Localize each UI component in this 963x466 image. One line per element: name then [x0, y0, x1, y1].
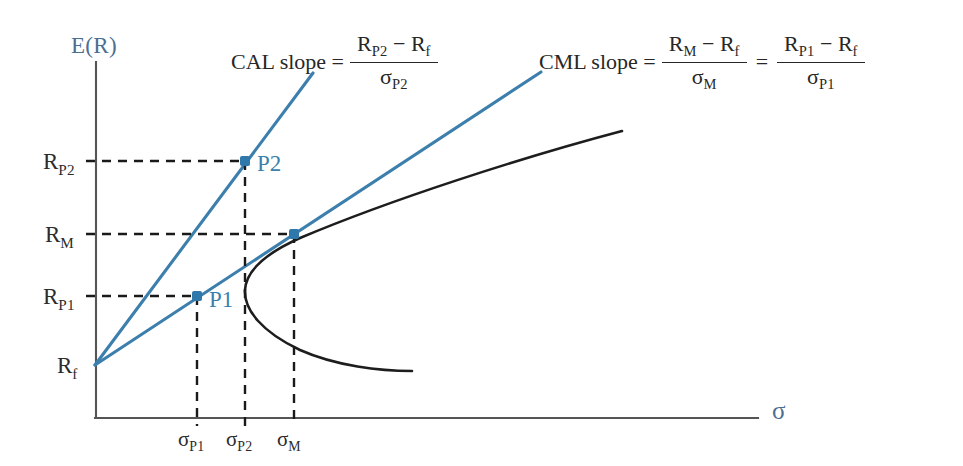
cml-f2-num-r1-sub: P1	[799, 43, 815, 59]
cml-f1-num-r1-sub: M	[683, 43, 696, 59]
x-tick-sigma-p2: σP2	[226, 429, 252, 454]
x-axis-title: σ	[772, 398, 786, 423]
y-tick-rm-base: R	[45, 222, 60, 247]
point-label-p1: P1	[209, 288, 233, 311]
cal-num-minus: −	[393, 31, 405, 56]
x-tick-sigma-p1-base: σ	[178, 427, 189, 451]
cml-slope-fraction-2: RP1 − Rf σP1	[777, 32, 865, 93]
x-tick-sigma-p2-sub: P2	[237, 439, 252, 454]
y-tick-rf-base: R	[57, 353, 72, 378]
point-label-p2: P2	[257, 152, 281, 175]
cml-slope-annotation: CML slope = RM − Rf σM = RP1 − Rf σP1	[539, 32, 865, 93]
cml-f2-denominator: σP1	[800, 63, 842, 93]
efficient-frontier-curve	[245, 131, 622, 371]
point-marker-p1	[192, 291, 202, 301]
cml-f2-num-r2: R	[838, 31, 853, 56]
cal-num-r1: R	[357, 31, 372, 56]
cml-f1-denominator: σM	[685, 63, 724, 93]
cal-den-sigma: σ	[380, 64, 392, 89]
cal-line	[95, 73, 313, 365]
y-tick-rf-sub: f	[72, 365, 77, 382]
x-tick-sigma-p1: σP1	[178, 429, 204, 454]
y-tick-rp1-sub: P1	[58, 296, 74, 313]
y-tick-rp2: RP2	[43, 150, 75, 177]
cml-f2-den-sigma: σ	[807, 64, 819, 89]
point-marker-m	[289, 229, 299, 239]
cml-f1-num-r2: R	[720, 31, 735, 56]
x-tick-sigma-p1-sub: P1	[189, 439, 204, 454]
cal-cml-figure: E(R) σ RP2 RM RP1 Rf σP1 σP2 σM P2 P1 CA…	[0, 0, 963, 466]
cml-f2-den-sigma-sub: P1	[819, 77, 835, 93]
cml-f1-num-r1: R	[669, 31, 684, 56]
cal-num-r1-sub: P2	[372, 43, 388, 59]
cml-f1-den-sigma-sub: M	[704, 77, 717, 93]
cal-slope-denominator: σP2	[373, 63, 415, 93]
cml-equals-sign: =	[753, 51, 771, 73]
cal-slope-annotation: CAL slope = RP2 − Rf σP2	[231, 32, 438, 93]
y-tick-rp1: RP1	[43, 285, 75, 312]
y-tick-rp2-base: R	[43, 149, 58, 174]
cml-line	[95, 72, 541, 365]
cal-den-sigma-sub: P2	[392, 77, 408, 93]
cml-f1-num-r2-sub: f	[735, 43, 740, 59]
cml-f2-numerator: RP1 − Rf	[777, 32, 865, 62]
cal-slope-text: CAL slope =	[231, 51, 344, 73]
x-tick-sigma-m-sub: M	[288, 439, 301, 454]
x-tick-sigma-m: σM	[277, 429, 301, 454]
y-tick-rp1-base: R	[43, 284, 58, 309]
cal-num-r2: R	[411, 31, 426, 56]
point-marker-p2	[240, 156, 250, 166]
x-tick-sigma-m-base: σ	[277, 427, 288, 451]
cml-f1-num-minus: −	[702, 31, 714, 56]
y-axis-title: E(R)	[71, 34, 117, 57]
cml-f2-num-minus: −	[820, 31, 832, 56]
cal-slope-numerator: RP2 − Rf	[350, 32, 438, 62]
cml-slope-text: CML slope =	[539, 51, 656, 73]
y-tick-rp2-sub: P2	[58, 161, 74, 178]
cml-slope-fraction-1: RM − Rf σM	[662, 32, 747, 93]
cml-f1-numerator: RM − Rf	[662, 32, 747, 62]
cal-slope-fraction: RP2 − Rf σP2	[350, 32, 438, 93]
cml-f1-den-sigma: σ	[692, 64, 704, 89]
y-tick-rm-sub: M	[60, 234, 74, 251]
y-tick-rm: RM	[45, 223, 74, 250]
x-tick-sigma-p2-base: σ	[226, 427, 237, 451]
y-tick-rf: Rf	[57, 354, 78, 381]
cal-num-r2-sub: f	[426, 43, 431, 59]
cml-f2-num-r2-sub: f	[853, 43, 858, 59]
cml-f2-num-r1: R	[784, 31, 799, 56]
